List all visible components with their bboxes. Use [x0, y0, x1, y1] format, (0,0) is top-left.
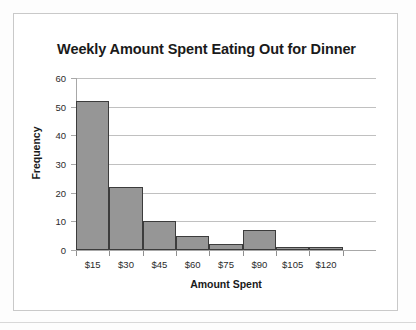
gridline	[76, 135, 376, 136]
screenshot-root: Weekly Amount Spent Eating Out for Dinne…	[0, 0, 416, 330]
y-axis-title: Frequency	[30, 113, 42, 193]
chart-card: Weekly Amount Spent Eating Out for Dinne…	[13, 13, 398, 311]
x-axis-title: Amount Spent	[76, 278, 376, 290]
y-tick-label: 60	[26, 73, 66, 84]
gridline	[76, 78, 376, 79]
x-tick-mark	[143, 251, 144, 256]
bar	[309, 247, 342, 250]
bar	[243, 230, 276, 250]
x-tick-label: $120	[303, 259, 349, 270]
x-tick-mark	[309, 251, 310, 256]
x-tick-mark	[176, 251, 177, 256]
bar	[209, 244, 242, 250]
y-tick-label: 0	[26, 245, 66, 256]
gridline	[76, 164, 376, 165]
page-bottom-rule	[0, 322, 416, 323]
bar	[276, 247, 309, 250]
x-tick-mark	[243, 251, 244, 256]
bar	[176, 236, 209, 250]
y-tick-mark	[71, 78, 76, 79]
x-tick-mark	[276, 251, 277, 256]
x-axis-line	[76, 250, 376, 251]
x-tick-mark	[109, 251, 110, 256]
x-tick-mark	[209, 251, 210, 256]
gridline	[76, 107, 376, 108]
bar	[143, 221, 176, 250]
bar	[109, 187, 142, 250]
y-tick-label: 10	[26, 216, 66, 227]
x-tick-mark	[343, 251, 344, 256]
x-tick-mark	[76, 251, 77, 256]
bar	[76, 101, 109, 250]
y-tick-label: 50	[26, 101, 66, 112]
plot-wrapper: 0102030405060 $15$30$45$60$75$90$105$120…	[14, 14, 399, 312]
